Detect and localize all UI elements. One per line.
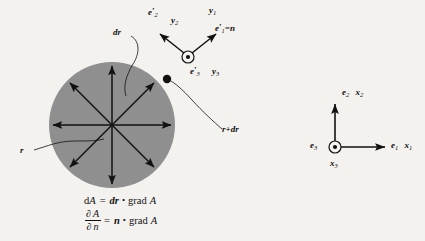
eq2-num-partial: ∂ (86, 208, 91, 219)
eq2-dot: • (120, 215, 129, 225)
label-e1-prime-equals-n: e′1=n (215, 24, 235, 33)
label-y3-sub: 3 (216, 70, 219, 77)
label-r-plus-dr: r+dr (222, 125, 239, 134)
equation-block: dA = dr • grad A ∂A ∂n = n • grad A (84, 193, 157, 232)
label-y3: y3 (212, 67, 219, 76)
eq2-grad: grad (129, 215, 148, 226)
figure-canvas: dr r r+dr e′2 y2 y1 e′1=n e′3 y3 e2 x2 e… (0, 0, 425, 241)
eq1-rhs-A: A (150, 195, 156, 206)
label-x1-sub: 1 (409, 144, 412, 151)
label-x3-sub: 3 (335, 162, 338, 169)
label-y2: y2 (171, 16, 178, 25)
eq2-den-n: n (94, 221, 99, 232)
label-e1-prime-equals-n-text: =n (225, 23, 235, 33)
diagram-vector-layer (0, 0, 425, 241)
label-e1-prime-sub: 1 (222, 27, 225, 34)
eq2-equals: = (104, 215, 110, 226)
arrow-e1-prime-n (192, 34, 216, 53)
label-e1-x1: e1 x1 (391, 141, 412, 150)
leader-line-r-plus-dr (169, 80, 222, 129)
equation-line-2: ∂A ∂n = n • grad A (84, 208, 157, 232)
eq1-dot: • (119, 195, 128, 205)
label-r: r (20, 146, 24, 155)
label-e2-sub: 2 (346, 91, 349, 98)
eq2-denominator: ∂n (85, 220, 101, 232)
eq2-num-A: A (93, 208, 99, 219)
eq1-equals: = (100, 195, 106, 206)
eq1-dr: dr (110, 195, 119, 206)
label-e1-sub: 1 (395, 144, 398, 151)
label-y1: y1 (209, 6, 216, 15)
local-frame-origin-dot (186, 55, 190, 59)
eq1-grad: grad (128, 195, 147, 206)
eq2-fraction: ∂A ∂n (84, 209, 101, 232)
eq1-A: A (89, 195, 95, 206)
label-e3-sub: 3 (314, 144, 317, 151)
label-x3-base: x (330, 158, 335, 168)
label-y2-sub: 2 (175, 19, 178, 26)
label-e3-prime-sub: 3 (197, 70, 200, 77)
label-dr: dr (113, 28, 121, 37)
label-x2-sub: 2 (360, 91, 363, 98)
global-frame-origin-dot (333, 145, 337, 149)
eq2-numerator: ∂A (84, 209, 101, 220)
label-x3: x3 (330, 159, 338, 168)
eq2-rhs-A: A (151, 215, 157, 226)
label-y1-sub: 1 (213, 9, 216, 16)
eq2-den-partial: ∂ (87, 221, 92, 232)
boundary-point-dot (163, 75, 171, 83)
arrow-e2-prime (160, 34, 184, 53)
equation-line-1: dA = dr • grad A (84, 193, 157, 207)
label-e3-prime: e′3 (190, 67, 200, 76)
label-e2-x2: e2 x2 (342, 88, 363, 97)
radial-arrow-group (53, 66, 171, 184)
label-e2-prime-sub: 2 (155, 11, 158, 18)
label-e2-prime: e′2 (148, 8, 158, 17)
label-e3: e3 (310, 141, 317, 150)
